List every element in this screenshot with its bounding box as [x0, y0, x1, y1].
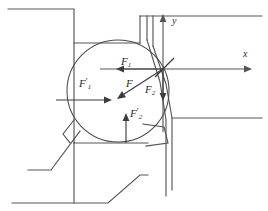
- force-F1-prime-symbol: F: [79, 77, 86, 89]
- x-axis-label: x: [243, 49, 247, 59]
- force-F-symbol: F: [126, 77, 133, 89]
- force-F2-prime-symbol: F: [130, 107, 137, 119]
- diagram-canvas: y x F1 F F2 F′1 F′2: [0, 0, 268, 211]
- force-F1-prime-subscript: 1: [88, 83, 92, 91]
- force-F2-prime-arrowhead: [123, 113, 130, 121]
- upper-left-block-outline: [8, 9, 74, 143]
- force-F1-label: F1: [121, 56, 131, 69]
- x-axis-arrowhead: [244, 66, 252, 73]
- force-F-arrowhead: [117, 91, 126, 99]
- force-F1-prime-arrowhead: [104, 97, 112, 104]
- base-bottom-edge: [12, 175, 148, 203]
- lower-left-slope: [28, 131, 80, 170]
- force-F2-prime-subscript: 2: [139, 113, 143, 121]
- force-F-label: F: [126, 78, 133, 89]
- force-F2-symbol: F: [145, 83, 152, 95]
- mechanics-figure: [0, 0, 268, 211]
- force-F1-symbol: F: [121, 55, 128, 67]
- force-F2-prime-label: F′2: [130, 107, 142, 121]
- left-notch-seat: [63, 120, 74, 143]
- y-axis-arrowhead: [160, 14, 167, 22]
- force-F1-subscript: 1: [128, 61, 132, 69]
- force-F2-subscript: 2: [152, 89, 156, 97]
- force-F1-prime-label: F′1: [79, 77, 91, 91]
- force-F2-arrowhead: [160, 93, 167, 101]
- force-F2-label: F2: [145, 84, 155, 97]
- y-axis-label: y: [172, 16, 176, 26]
